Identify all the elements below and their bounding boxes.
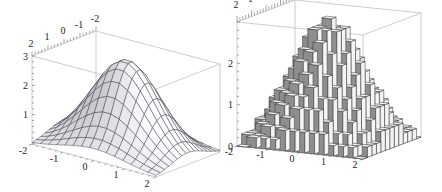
surface-y-tick-label: 2 <box>29 38 34 49</box>
surface-x-tick-label: -1 <box>50 153 58 164</box>
bar-x-tick-label: 1 <box>321 156 326 167</box>
surface-z-tick-label: 1 <box>23 109 28 120</box>
bar-histogram-3d: -2-1012210-1-2012 <box>225 0 421 170</box>
bar-side-face <box>305 131 309 153</box>
surface-x-tick <box>29 144 32 145</box>
surface-x-tick <box>135 172 137 173</box>
bar-side-face <box>376 142 380 154</box>
surface-x-tick <box>111 165 113 166</box>
surface-x-tick <box>142 174 144 175</box>
surface-x-tick <box>60 152 63 153</box>
surface-x-tick <box>91 161 94 162</box>
surface-x-tick <box>129 170 131 171</box>
bar-side-face <box>334 144 338 156</box>
bar-side-face <box>324 133 328 155</box>
surface-box-edge <box>96 31 220 64</box>
bar-side-face <box>256 136 260 148</box>
bar-side-face <box>385 128 389 150</box>
surface-x-tick <box>42 147 44 148</box>
surface-x-tick <box>86 159 88 160</box>
bar-side-face <box>372 144 376 156</box>
plots-canvas: -2-1012210-1-2123 -2-1012210-1-2012 <box>0 0 442 192</box>
surface-x-tick <box>148 175 150 176</box>
surface-x-tick-label: 0 <box>83 161 88 172</box>
bar-z-tick-label: 2 <box>228 58 233 69</box>
bar-z-tick-label: 0 <box>228 141 233 152</box>
bar-side-face <box>394 125 398 147</box>
surface-y-tick-label: -2 <box>91 13 99 24</box>
bar-box-edge <box>295 0 421 13</box>
surface-x-tick <box>36 146 38 147</box>
surface-box-edge <box>156 64 220 89</box>
surface-y-tick-label: 0 <box>61 25 66 36</box>
bar-side-face <box>358 144 362 156</box>
bar-side-face <box>399 123 403 145</box>
bar-side-face <box>285 129 289 151</box>
surface-x-tick-label: 1 <box>114 169 119 180</box>
surface-x-tick-label: -2 <box>19 145 27 156</box>
bar-side-face <box>408 130 412 142</box>
surface-x-tick <box>122 169 125 170</box>
bar-x-tick <box>234 146 237 147</box>
surface-x-tick <box>80 157 82 158</box>
surface-y-tick-label: 1 <box>45 31 50 42</box>
surface-x-tick-label: 2 <box>145 178 150 189</box>
bar-side-face <box>412 128 416 140</box>
surface-plot-3d: -2-1012210-1-2123 <box>19 13 220 189</box>
bar-x-tick-label: 2 <box>352 159 357 170</box>
bar-side-face <box>295 130 299 152</box>
bar-side-face <box>381 130 385 152</box>
bar-side-face <box>276 138 280 150</box>
bar-side-face <box>315 132 319 154</box>
surface-z-tick-label: 2 <box>23 80 28 91</box>
surface-x-tick <box>117 167 119 168</box>
surface-x-tick <box>55 151 57 152</box>
bar-side-face <box>403 132 407 144</box>
surface-y-tick-label: -1 <box>75 19 83 30</box>
bar-side-face <box>266 137 270 149</box>
surface-x-tick <box>98 162 100 163</box>
surface-x-tick <box>153 177 156 178</box>
surface-z-tick-label: 3 <box>23 51 28 62</box>
bar-z-tick-label: 1 <box>228 99 233 110</box>
bar-side-face <box>353 146 357 158</box>
bar-x-tick-label: -1 <box>256 149 264 160</box>
surface-x-tick <box>73 156 75 157</box>
bar-x-tick-label: 0 <box>289 153 294 164</box>
bar-y-tick-label: 1 <box>248 0 253 4</box>
bar-side-face <box>367 145 371 157</box>
bar-side-face <box>390 126 394 148</box>
surface-x-tick <box>49 149 51 150</box>
bar-box-edge <box>363 13 421 35</box>
surface-x-tick <box>67 154 69 155</box>
surface-x-tick <box>104 164 106 165</box>
bar-side-face <box>344 145 348 157</box>
bar-y-tick-label: 2 <box>234 0 239 10</box>
